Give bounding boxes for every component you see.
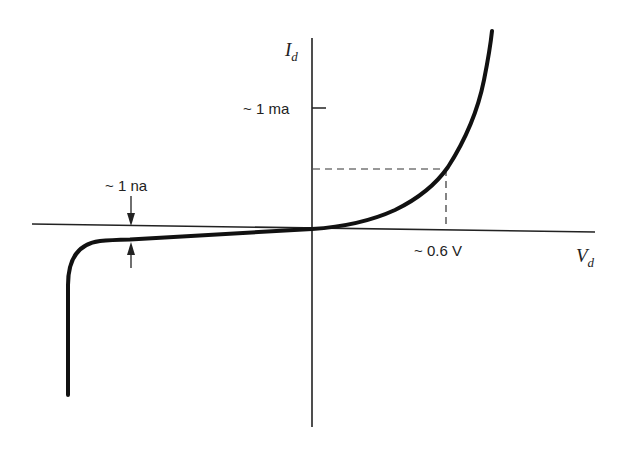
- diode-iv-diagram: Id Vd ~ 1 ma ~ 0.6 V ~ 1 na: [0, 0, 626, 451]
- x-axis-label: Vd: [576, 245, 595, 270]
- reverse-leakage-label: ~ 1 na: [105, 177, 148, 194]
- y-axis-label: Id: [284, 39, 298, 64]
- leakage-arrow-down-icon: [127, 213, 135, 226]
- forward-current-label: ~ 1 ma: [243, 100, 290, 117]
- leakage-arrow-up-icon: [127, 242, 135, 255]
- forward-voltage-label: ~ 0.6 V: [414, 242, 462, 259]
